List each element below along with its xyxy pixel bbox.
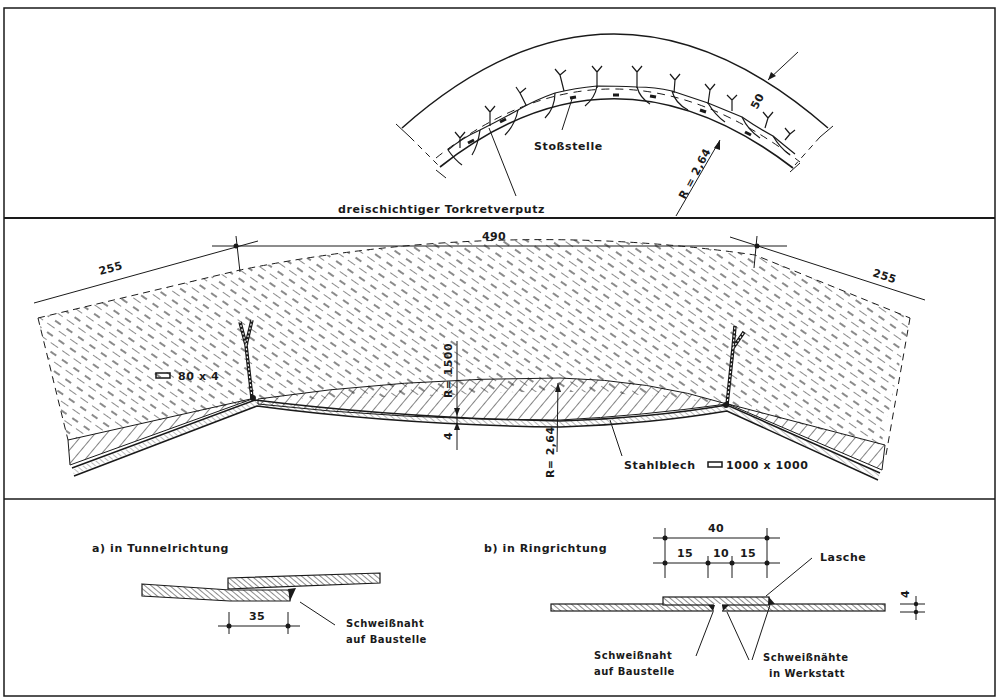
detail-b-site-weld-line2: auf Baustelle <box>594 666 675 677</box>
arch-overview-panel: Stoßstelle dreischichtiger Torkretverput… <box>338 34 833 216</box>
dim-left-255: 255 <box>97 259 124 278</box>
segment-section-panel: 255 490 255 80 x 4 R= 1500 4 R= 2,64 Sta… <box>34 230 925 480</box>
dim-right-255: 255 <box>871 266 898 286</box>
detail-a-title: a) in Tunnelrichtung <box>92 542 229 555</box>
label-radius-264: R= 2,64 <box>544 427 557 478</box>
detail-b-seg2: 10 <box>713 547 729 560</box>
label-thickness-50: 50 <box>748 91 767 111</box>
detail-b-thickness: 4 <box>899 590 912 598</box>
detail-b-title: b) in Ringrichtung <box>484 542 607 555</box>
label-steel-sheet-size: 1000 x 1000 <box>726 459 809 472</box>
detail-b-shop-weld-line1: Schweißnähte <box>763 652 848 663</box>
dim-center-490: 490 <box>482 230 506 243</box>
label-radius-1500: R= 1500 <box>442 343 455 398</box>
segment-scallops <box>448 86 795 165</box>
detail-b: b) in Ringrichtung 40 15 10 15 Lasche 4 … <box>484 522 925 679</box>
label-sheet-thickness: 4 <box>442 432 455 440</box>
label-radius-264: R = 2,64 <box>676 146 714 201</box>
label-steel-sheet: Stahlblech <box>624 459 696 472</box>
detail-b-seg3: 15 <box>740 547 756 560</box>
technical-drawing: Stoßstelle dreischichtiger Torkretverput… <box>0 0 1000 699</box>
detail-b-shop-weld-line2: in Werkstatt <box>769 668 845 679</box>
label-shotcrete: dreischichtiger Torkretverputz <box>338 203 545 216</box>
weld-details-panel: a) in Tunnelrichtung 35 Schweißnaht auf … <box>92 522 925 679</box>
detail-a-overlap: 35 <box>249 610 265 623</box>
label-joint: Stoßstelle <box>534 140 603 153</box>
detail-a-weld-line1: Schweißnaht <box>346 618 424 629</box>
sheet-symbol-icon <box>708 462 722 467</box>
detail-a-weld-line2: auf Baustelle <box>346 634 427 645</box>
detail-a: a) in Tunnelrichtung 35 Schweißnaht auf … <box>92 542 427 645</box>
detail-b-site-weld-line1: Schweißnaht <box>594 650 672 661</box>
detail-b-seg1: 15 <box>677 547 693 560</box>
detail-b-strap: Lasche <box>820 551 866 564</box>
detail-b-total: 40 <box>708 522 724 535</box>
label-flat-bar: 80 x 4 <box>178 370 219 383</box>
